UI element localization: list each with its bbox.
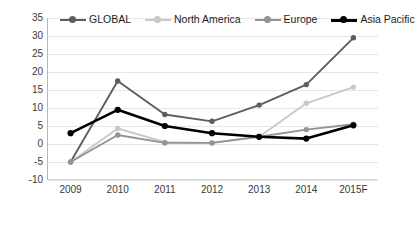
legend-item-label: Asia Pacific (360, 14, 414, 25)
legend-item-label: North America (174, 14, 241, 25)
chart-legend: GLOBALNorth AmericaEuropeAsia Pacific (60, 14, 415, 25)
data-point (256, 134, 262, 140)
data-point (115, 107, 121, 113)
legend-swatch-icon (255, 14, 281, 25)
data-point (115, 78, 120, 83)
legend-marker-icon (264, 16, 271, 23)
data-point (209, 119, 214, 124)
legend-marker-icon (69, 16, 76, 23)
legend-marker-icon (154, 16, 161, 23)
data-point (162, 140, 167, 145)
legend-swatch-icon (145, 14, 171, 25)
data-point (304, 101, 309, 106)
legend-item-europe[interactable]: Europe (255, 14, 318, 25)
legend-swatch-icon (331, 14, 357, 25)
legend-item-asia-pacific[interactable]: Asia Pacific (331, 14, 414, 25)
data-point (304, 82, 309, 87)
data-point (304, 127, 309, 132)
data-point (351, 35, 356, 40)
series-line (71, 87, 354, 162)
series-north-america (68, 84, 356, 164)
data-point (209, 130, 215, 136)
data-point (67, 130, 73, 136)
legend-item-global[interactable]: GLOBAL (60, 14, 131, 25)
data-point (350, 122, 356, 128)
data-point (303, 136, 309, 142)
data-point (256, 102, 261, 107)
legend-swatch-icon (60, 14, 86, 25)
data-point (115, 126, 120, 131)
data-point (68, 159, 73, 164)
series-europe (68, 122, 356, 165)
data-point (351, 84, 356, 89)
series-asia-pacific (67, 107, 356, 142)
data-point (162, 123, 168, 129)
legend-item-north-america[interactable]: North America (145, 14, 241, 25)
data-point (209, 140, 214, 145)
data-point (115, 132, 120, 137)
data-point (162, 112, 167, 117)
legend-item-label: GLOBAL (89, 14, 131, 25)
legend-item-label: Europe (284, 14, 318, 25)
